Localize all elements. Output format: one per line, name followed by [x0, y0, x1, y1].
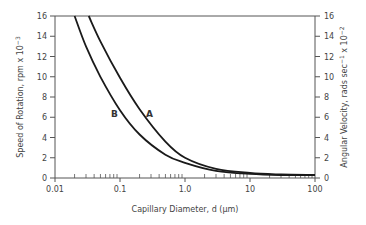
right-y-tick-label: 0 — [324, 174, 329, 183]
right-y-tick-label: 10 — [324, 73, 334, 82]
right-y-axis: 0246810121416 — [315, 12, 334, 183]
x-tick-label: 1.0 — [179, 185, 192, 194]
right-y-tick-label: 2 — [324, 154, 329, 163]
left-y-tick-label: 0 — [42, 174, 47, 183]
curve-label-a: A — [146, 109, 153, 119]
left-y-tick-label: 12 — [37, 53, 47, 62]
x-tick-label: 0.01 — [46, 185, 64, 194]
right-y-tick-label: 6 — [324, 113, 329, 122]
left-y-tick-label: 2 — [42, 154, 47, 163]
left-y-tick-label: 6 — [42, 113, 47, 122]
left-y-tick-label: 8 — [42, 93, 47, 102]
curve-b — [75, 16, 315, 175]
right-y-tick-label: 12 — [324, 53, 334, 62]
x-tick-label: 0.1 — [114, 185, 127, 194]
chart-svg: 0246810121416 0246810121416 0.010.11.010… — [0, 0, 366, 225]
right-y-tick-label: 8 — [324, 93, 329, 102]
right-y-tick-label: 4 — [324, 134, 329, 143]
left-y-tick-label: 14 — [37, 32, 47, 41]
right-y-axis-title-mid: x 10 — [340, 35, 349, 55]
left-y-axis-title: Speed of Rotation, rpm x 10−3 — [14, 36, 25, 158]
left-y-tick-label: 16 — [37, 12, 47, 21]
x-axis: 0.010.11.010100 — [46, 174, 323, 194]
curves — [75, 16, 315, 175]
left-y-axis-title-main: Speed of Rotation, rpm x 10 — [16, 45, 25, 158]
left-y-axis: 0246810121416 — [37, 12, 55, 183]
curve-a — [89, 16, 315, 175]
left-y-axis-title-exp: −3 — [14, 36, 21, 45]
left-y-tick-label: 10 — [37, 73, 47, 82]
x-tick-label: 10 — [245, 185, 255, 194]
right-y-tick-label: 14 — [324, 32, 334, 41]
plot-frame — [55, 16, 315, 178]
right-y-axis-title-main: Angular Velocity, rads sec — [340, 64, 349, 168]
x-tick-label: 100 — [307, 185, 322, 194]
x-axis-title: Capillary Diameter, d (μm) — [132, 205, 239, 214]
curve-label-b: B — [111, 109, 118, 119]
right-y-axis-title-exp2: −2 — [338, 26, 345, 35]
right-y-tick-label: 16 — [324, 12, 334, 21]
right-y-axis-title-exp1: −1 — [338, 55, 345, 64]
right-y-axis-title: Angular Velocity, rads sec−1 x 10−2 — [338, 26, 349, 167]
left-y-tick-label: 4 — [42, 134, 47, 143]
